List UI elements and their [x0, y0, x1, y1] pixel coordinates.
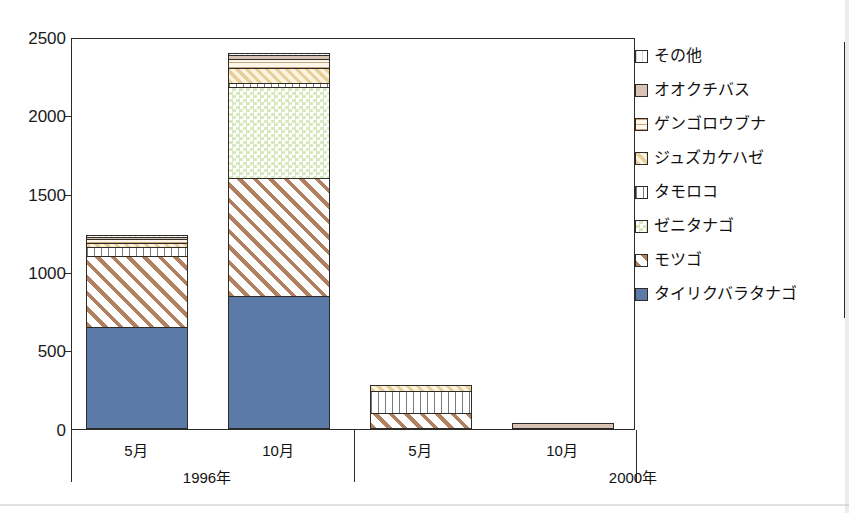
x-axis-separator-left	[71, 430, 72, 482]
bar-1996-may	[86, 235, 188, 429]
legend-item-gengorobuna[interactable]: ゲンゴロウブナ	[635, 113, 766, 135]
x-group-label-1996: 1996年	[127, 470, 287, 486]
y-axis: 2500 2000 1500 1000 500 0	[0, 0, 66, 470]
bar-segment-motsugo	[228, 178, 330, 296]
bar-segment-gengorobuna	[86, 239, 188, 242]
legend-swatch-tairikubaratanago-icon	[635, 288, 648, 301]
x-tick-label-1: 5月	[76, 443, 196, 459]
legend-label-tairikubaratanago: タイリクバラタナゴ	[654, 285, 797, 303]
legend-item-ookuchibasu[interactable]: オオクチバス	[635, 79, 750, 101]
legend-label-ookuchibasu: オオクチバス	[654, 81, 750, 99]
y-tick-label-500: 500	[6, 343, 66, 360]
bar-segment-motsugo	[86, 256, 188, 327]
legend-swatch-motsugo-icon	[635, 254, 648, 267]
bar-segment-juzukakehaze	[370, 385, 472, 391]
scan-edge-right	[845, 0, 849, 513]
legend-label-zenitanago: ゼニタナゴ	[654, 217, 734, 235]
bar-segment-zenitanago	[228, 87, 330, 178]
legend-swatch-tamoroko-icon	[635, 186, 648, 199]
legend-swatch-zenitanago-icon	[635, 220, 648, 233]
legend-label-juzukakehaze: ジュズカケハゼ	[654, 149, 764, 167]
bar-segment-tairikubaratanago	[86, 327, 188, 429]
legend-item-sonota[interactable]: その他	[635, 45, 702, 67]
bar-segment-juzukakehaze	[228, 68, 330, 82]
legend-swatch-juzukakehaze-icon	[635, 152, 648, 165]
x-tick-label-3: 5月	[360, 443, 480, 459]
bar-1996-october	[228, 53, 330, 429]
legend-item-tamoroko[interactable]: タモロコ	[635, 181, 718, 203]
legend-item-juzukakehaze[interactable]: ジュズカケハゼ	[635, 147, 764, 169]
x-group-label-2000: 2000年	[553, 470, 713, 486]
legend-label-tamoroko: タモロコ	[654, 183, 718, 201]
x-axis-separator-middle	[354, 430, 355, 482]
y-tick-label-1500: 1500	[6, 187, 66, 204]
bar-2000-october	[512, 423, 614, 429]
bar-2000-may	[370, 385, 472, 429]
x-tick-label-4: 10月	[502, 443, 622, 459]
bar-segment-tairikubaratanago	[228, 296, 330, 429]
legend: その他 オオクチバス ゲンゴロウブナ ジュズカケハゼ タモロコ ゼニタナゴ モツ…	[629, 42, 845, 318]
bar-segment-tamoroko	[86, 247, 188, 256]
y-tick-label-2500: 2500	[6, 30, 66, 47]
bar-segment-motsugo	[370, 413, 472, 429]
bar-segment-tamoroko	[370, 391, 472, 413]
scan-edge-bottom	[0, 504, 849, 506]
x-axis-separator-right	[636, 430, 637, 482]
legend-item-tairikubaratanago[interactable]: タイリクバラタナゴ	[635, 283, 797, 305]
bar-segment-tamoroko	[228, 83, 330, 88]
y-tick-label-1000: 1000	[6, 265, 66, 282]
y-tick-label-0: 0	[6, 422, 66, 439]
legend-label-sonota: その他	[654, 47, 702, 65]
legend-label-gengorobuna: ゲンゴロウブナ	[654, 115, 766, 133]
legend-item-zenitanago[interactable]: ゼニタナゴ	[635, 215, 734, 237]
legend-swatch-sonota-icon	[635, 50, 648, 63]
bar-segment-ookuchibasu	[512, 423, 614, 429]
bar-segment-ookuchibasu	[228, 55, 330, 59]
plot-area	[71, 38, 635, 430]
legend-item-motsugo[interactable]: モツゴ	[635, 249, 702, 271]
stacked-bar-chart: 2500 2000 1500 1000 500 0	[0, 0, 849, 513]
bar-segment-sonota	[228, 53, 330, 55]
legend-swatch-ookuchibasu-icon	[635, 84, 648, 97]
y-tick-label-2000: 2000	[6, 108, 66, 125]
bar-segment-gengorobuna	[228, 59, 330, 68]
bar-segment-juzukakehaze	[86, 243, 188, 248]
x-tick-label-2: 10月	[218, 443, 338, 459]
legend-swatch-gengorobuna-icon	[635, 118, 648, 131]
legend-label-motsugo: モツゴ	[654, 251, 702, 269]
bar-segment-ookuchibasu	[86, 237, 188, 239]
bar-segment-sonota	[86, 235, 188, 237]
